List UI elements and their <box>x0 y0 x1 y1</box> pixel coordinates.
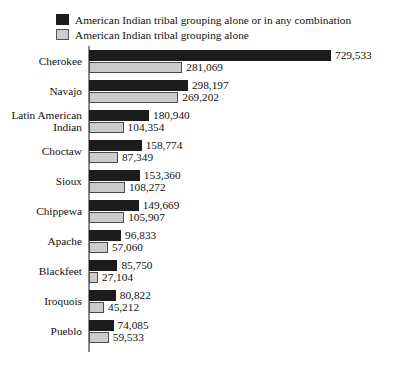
bar <box>89 140 142 151</box>
legend-entry-alone: American Indian tribal grouping alone <box>56 28 386 41</box>
bar-value-label: 96,833 <box>125 230 156 241</box>
legend-swatch-dark-icon <box>56 14 69 25</box>
bar-row: 104,354 <box>89 122 164 133</box>
bar <box>89 230 121 241</box>
category-label-line: Apache <box>48 235 83 248</box>
bar-value-label: 87,349 <box>122 152 153 163</box>
bar-row: 158,774 <box>89 140 182 151</box>
bar <box>89 182 125 193</box>
bar-group: Apache96,83357,060 <box>0 226 393 256</box>
legend-label-alone: American Indian tribal grouping alone <box>75 29 249 41</box>
bar <box>89 290 116 301</box>
legend-swatch-light-icon <box>56 29 69 40</box>
plot-area: Cherokee729,533281,069Navajo298,197269,2… <box>0 46 393 354</box>
category-label: Apache <box>0 226 82 256</box>
bar-group: Cherokee729,533281,069 <box>0 46 393 76</box>
bar <box>89 122 124 133</box>
bar <box>89 320 114 331</box>
bar <box>89 212 124 223</box>
bar-value-label: 80,822 <box>120 290 151 301</box>
bar-value-label: 281,069 <box>186 62 223 73</box>
category-label: Cherokee <box>0 46 82 76</box>
bar-row: 149,669 <box>89 200 179 211</box>
bar-row: 80,822 <box>89 290 151 301</box>
bar-group: Sioux153,360108,272 <box>0 166 393 196</box>
bar-value-label: 729,533 <box>335 50 372 61</box>
chart-legend: American Indian tribal grouping alone or… <box>56 13 386 43</box>
bar <box>89 152 118 163</box>
bar-value-label: 269,202 <box>182 92 219 103</box>
bar <box>89 110 149 121</box>
bar-group: Choctaw158,77487,349 <box>0 136 393 166</box>
category-label-line: Latin American <box>11 109 82 122</box>
category-label-line: Cherokee <box>39 55 82 68</box>
bar <box>89 332 109 343</box>
category-label: Sioux <box>0 166 82 196</box>
bar-group: Blackfeet85,75027,104 <box>0 256 393 286</box>
bar-row: 45,212 <box>89 302 139 313</box>
bar <box>89 170 140 181</box>
bar-value-label: 57,060 <box>112 242 143 253</box>
bar <box>89 272 98 283</box>
bar-value-label: 298,197 <box>192 80 229 91</box>
bar-row: 281,069 <box>89 62 223 73</box>
bar-row: 269,202 <box>89 92 219 103</box>
category-label: Pueblo <box>0 316 82 346</box>
bar <box>89 62 182 73</box>
bar <box>89 260 117 271</box>
bar <box>89 92 178 103</box>
bar-value-label: 27,104 <box>102 272 133 283</box>
bar-group: Latin AmericanIndian180,940104,354 <box>0 106 393 136</box>
bar <box>89 302 104 313</box>
bar-value-label: 45,212 <box>108 302 139 313</box>
bar-value-label: 153,360 <box>144 170 181 181</box>
bar-chart-figure: American Indian tribal grouping alone or… <box>0 0 393 368</box>
category-label: Blackfeet <box>0 256 82 286</box>
bar-value-label: 59,533 <box>113 332 144 343</box>
category-label-line: Navajo <box>49 85 82 98</box>
bar-group: Pueblo74,08559,533 <box>0 316 393 346</box>
category-label-line: Indian <box>53 121 82 134</box>
bar-row: 74,085 <box>89 320 149 331</box>
bar-row: 729,533 <box>89 50 372 61</box>
bar-group: Navajo298,197269,202 <box>0 76 393 106</box>
legend-label-combination: American Indian tribal grouping alone or… <box>75 14 351 26</box>
bar-value-label: 74,085 <box>118 320 149 331</box>
bar-row: 105,907 <box>89 212 165 223</box>
bar-row: 27,104 <box>89 272 133 283</box>
bar-row: 96,833 <box>89 230 156 241</box>
bar-row: 180,940 <box>89 110 190 121</box>
bar-value-label: 158,774 <box>146 140 183 151</box>
category-label-line: Choctaw <box>42 145 82 158</box>
legend-entry-combination: American Indian tribal grouping alone or… <box>56 13 386 26</box>
bar-value-label: 85,750 <box>121 260 152 271</box>
category-label: Iroquois <box>0 286 82 316</box>
category-label: Latin AmericanIndian <box>0 106 82 136</box>
bar-row: 59,533 <box>89 332 144 343</box>
bar-value-label: 104,354 <box>128 122 165 133</box>
category-label-line: Chippewa <box>36 205 82 218</box>
bar-group: Chippewa149,669105,907 <box>0 196 393 226</box>
category-label-line: Iroquois <box>44 295 82 308</box>
category-label-line: Sioux <box>56 175 82 188</box>
bar-value-label: 149,669 <box>143 200 180 211</box>
bar-row: 153,360 <box>89 170 181 181</box>
bar <box>89 50 331 61</box>
category-label: Choctaw <box>0 136 82 166</box>
bar <box>89 80 188 91</box>
bar-row: 298,197 <box>89 80 229 91</box>
bar-value-label: 105,907 <box>128 212 165 223</box>
category-label: Navajo <box>0 76 82 106</box>
bar-row: 87,349 <box>89 152 153 163</box>
bar-row: 57,060 <box>89 242 143 253</box>
bar-value-label: 180,940 <box>153 110 190 121</box>
bar-row: 108,272 <box>89 182 166 193</box>
category-label: Chippewa <box>0 196 82 226</box>
bar-group: Iroquois80,82245,212 <box>0 286 393 316</box>
bar-row: 85,750 <box>89 260 153 271</box>
category-label-line: Blackfeet <box>39 265 82 278</box>
bar <box>89 242 108 253</box>
bar-value-label: 108,272 <box>129 182 166 193</box>
bar <box>89 200 139 211</box>
category-label-line: Pueblo <box>51 325 82 338</box>
